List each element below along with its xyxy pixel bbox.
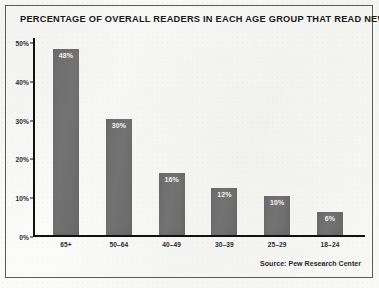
bar-group: 6%18–24 <box>317 212 343 235</box>
y-axis-tick-mark <box>30 81 33 82</box>
x-axis-tick-label: 25–29 <box>268 241 287 248</box>
bar-value-label: 30% <box>106 122 132 129</box>
source-attribution: Source: Pew Research Center <box>260 260 361 267</box>
bar-group: 48%65+ <box>53 49 79 235</box>
bar-group: 12%30–39 <box>211 188 237 235</box>
x-axis-tick-label: 18–24 <box>321 241 340 248</box>
chart-title: PERCENTAGE OF OVERALL READERS IN EACH AG… <box>20 13 360 24</box>
bar-value-label: 6% <box>317 215 343 222</box>
y-axis-tick-mark <box>30 159 33 160</box>
x-axis-line <box>33 235 365 237</box>
chart-page: PERCENTAGE OF OVERALL READERS IN EACH AG… <box>0 0 379 288</box>
y-axis-line <box>33 38 35 237</box>
bar: 30% <box>106 119 132 235</box>
bar: 16% <box>159 173 185 235</box>
x-axis-tick-label: 65+ <box>60 241 72 248</box>
bar: 6% <box>317 212 343 235</box>
x-axis-tick-label: 30–39 <box>215 241 234 248</box>
bar: 12% <box>211 188 237 235</box>
y-axis-tick-label: 0% <box>19 234 29 241</box>
x-axis-tick-label: 50–64 <box>109 241 128 248</box>
bar: 10% <box>264 196 290 235</box>
y-axis-tick-mark <box>30 43 33 44</box>
bar-value-label: 16% <box>159 176 185 183</box>
y-axis-tick-label: 10% <box>16 195 30 202</box>
y-axis-tick-mark <box>30 237 33 238</box>
y-axis-tick-label: 30% <box>16 117 30 124</box>
bar-value-label: 12% <box>211 191 237 198</box>
bar-group: 16%40–49 <box>159 173 185 235</box>
bar-group: 30%50–64 <box>106 119 132 235</box>
bar-value-label: 48% <box>53 52 79 59</box>
y-axis-tick-mark <box>30 198 33 199</box>
bar: 48% <box>53 49 79 235</box>
bar-group: 10%25–29 <box>264 196 290 235</box>
plot-area: 0%10%20%30%40%50% 48%65+30%50–6416%40–49… <box>33 41 365 237</box>
y-axis-tick-mark <box>30 120 33 121</box>
bar-value-label: 10% <box>264 199 290 206</box>
y-axis-tick-label: 50% <box>16 40 30 47</box>
x-axis-tick-label: 40–49 <box>162 241 181 248</box>
y-axis-tick-label: 40% <box>16 78 30 85</box>
y-axis-tick-label: 20% <box>16 156 30 163</box>
